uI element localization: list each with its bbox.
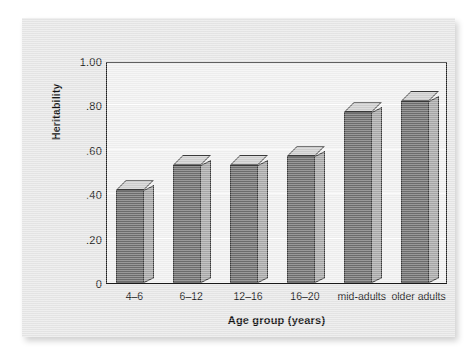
x-axis-tick-label: mid-adults [338, 290, 386, 302]
bar [116, 180, 154, 283]
x-axis-tick-label: 4–6 [126, 290, 144, 302]
gridline [107, 193, 446, 194]
bar-front-face [116, 190, 144, 283]
bar-side-face [372, 107, 382, 283]
gridline [107, 238, 446, 239]
bar-front-face [344, 112, 372, 283]
x-axis-title: Age group (years) [106, 314, 447, 326]
bar [401, 91, 439, 283]
bar-front-face [401, 101, 429, 283]
x-axis-tick-label: 6–12 [180, 290, 203, 302]
figure-card: Heritability 1.00.80.60.40.200 4–66–1212… [22, 18, 455, 337]
bar-side-face [315, 152, 325, 283]
x-axis-tick-label: older adults [391, 290, 445, 302]
x-axis-tick-labels: 4–66–1212–1616–20mid-adultsolder adults [106, 290, 447, 306]
bar-front-face [173, 165, 201, 283]
bar [344, 102, 382, 283]
gridline [107, 104, 446, 105]
x-axis-tick-label: 16–20 [290, 290, 319, 302]
bar-side-face [258, 160, 268, 283]
bar-front-face [230, 165, 258, 283]
x-axis-tick-label: 12–16 [233, 290, 262, 302]
bar [173, 155, 211, 283]
y-axis-tick-label: 1.00 [56, 56, 102, 68]
bar-side-face [201, 160, 211, 283]
bar-side-face [429, 96, 439, 283]
y-axis-tick-label: .20 [56, 234, 102, 246]
y-axis-tick-label: .80 [56, 100, 102, 112]
bar [230, 155, 268, 283]
y-axis-tick-labels: 1.00.80.60.40.200 [52, 62, 102, 284]
bar-front-face [287, 156, 315, 283]
y-axis-tick-label: .40 [56, 189, 102, 201]
bar-chart: Heritability 1.00.80.60.40.200 4–66–1212… [22, 18, 455, 337]
bar [287, 146, 325, 283]
bar-side-face [144, 185, 154, 283]
y-axis-tick-label: 0 [56, 278, 102, 290]
y-axis-tick-label: .60 [56, 145, 102, 157]
gridline [107, 149, 446, 150]
plot-area [106, 62, 447, 284]
